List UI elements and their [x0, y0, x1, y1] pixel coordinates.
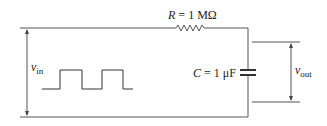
resistor-icon [176, 25, 204, 31]
vout-arrow-up-icon [289, 43, 293, 48]
vin-arrow-up-icon [25, 29, 29, 34]
capacitor-label: C = 1 μF [193, 67, 236, 79]
resistor-value: 1 MΩ [188, 8, 217, 22]
resistor-equals: = [175, 8, 188, 22]
vin-label: vin [31, 61, 43, 76]
capacitor-equals: = [201, 66, 214, 80]
vin-subscript: in [36, 66, 43, 76]
square-wave-icon [42, 70, 133, 89]
capacitor-value: 1 μF [214, 66, 236, 80]
rc-circuit-diagram: R = 1 MΩ C = 1 μF vin vout [0, 0, 327, 126]
capacitor-symbol: C [193, 66, 201, 80]
circuit-schematic [0, 0, 327, 126]
vout-arrow-down-icon [289, 96, 293, 101]
vout-label: vout [295, 64, 312, 79]
resistor-label: R = 1 MΩ [168, 9, 217, 21]
vin-arrow-down-icon [25, 111, 29, 116]
vout-subscript: out [300, 69, 312, 79]
